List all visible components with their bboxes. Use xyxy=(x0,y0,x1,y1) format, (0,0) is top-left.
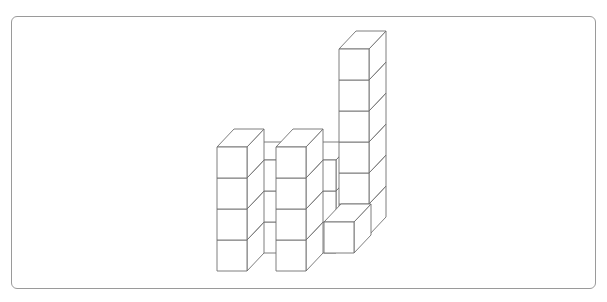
cube-front-face xyxy=(276,147,306,178)
cube-front-face xyxy=(339,111,369,142)
cube-front-face xyxy=(217,209,247,240)
middle-tower xyxy=(276,129,323,271)
cube-front-face xyxy=(339,142,369,173)
cube-front-face xyxy=(339,173,369,204)
cube-front-face xyxy=(276,178,306,209)
cube-front-face xyxy=(217,178,247,209)
cube-front-face xyxy=(339,49,369,80)
left-tower xyxy=(217,129,264,271)
cube-front-face xyxy=(324,222,354,253)
cube-front-face xyxy=(276,240,306,271)
cube-front-face xyxy=(339,80,369,111)
cube-front-face xyxy=(217,240,247,271)
cube-front-face xyxy=(276,209,306,240)
cube-front-face xyxy=(217,147,247,178)
cube-structure-diagram xyxy=(0,0,607,302)
